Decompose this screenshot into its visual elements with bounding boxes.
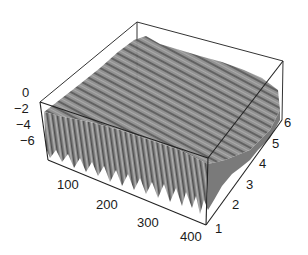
z-tick-neg2: −2 xyxy=(14,102,29,115)
z-tick-0: 0 xyxy=(22,86,29,99)
y-tick-5: 5 xyxy=(272,137,279,150)
y-tick-1: 1 xyxy=(215,222,222,235)
z-tick-neg4: −4 xyxy=(16,118,31,131)
y-tick-3: 3 xyxy=(246,178,253,191)
x-tick-400: 400 xyxy=(180,230,202,243)
x-tick-100: 100 xyxy=(57,178,79,191)
y-tick-4: 4 xyxy=(259,157,266,170)
x-tick-200: 200 xyxy=(96,198,118,211)
y-tick-6: 6 xyxy=(284,116,291,129)
y-tick-2: 2 xyxy=(232,198,239,211)
x-tick-300: 300 xyxy=(137,216,159,229)
z-tick-neg6: −6 xyxy=(20,134,35,147)
